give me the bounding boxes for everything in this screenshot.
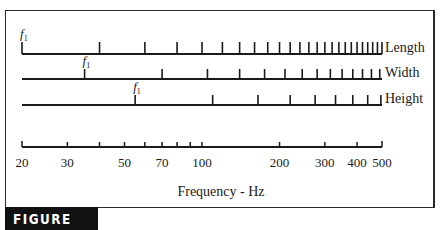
x-axis-label: Frequency - Hz (0, 184, 442, 200)
fundamental-label-length: f1 (20, 26, 28, 43)
axis-tick-label: 400 (347, 155, 367, 170)
fundamental-label-width: f1 (83, 53, 91, 70)
axis-tick-label: 70 (156, 155, 169, 170)
axis-tick-label: 100 (192, 155, 212, 170)
axis-tick-label: 500 (372, 155, 392, 170)
axis-tick-label: 300 (315, 155, 335, 170)
axis-tick-label: 30 (61, 155, 74, 170)
series-label-length: Length (385, 40, 425, 56)
axis-tick-label: 200 (270, 155, 290, 170)
axis-tick-label: 50 (118, 155, 131, 170)
axis-tick-label: 20 (16, 155, 29, 170)
figure-number-badge: FIGURE 15-21 (5, 207, 98, 230)
fundamental-label-height: f1 (133, 79, 141, 96)
series-label-height: Height (385, 91, 423, 107)
series-label-width: Width (385, 65, 419, 81)
